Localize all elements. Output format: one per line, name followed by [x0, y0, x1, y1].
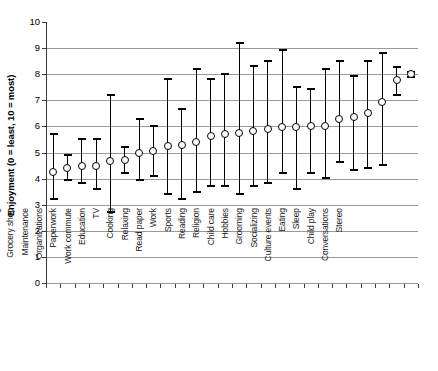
- error-bar-cap-upper: [50, 133, 58, 135]
- error-bar-cap-lower: [336, 161, 344, 163]
- error-bar-cap-lower: [178, 198, 186, 200]
- x-tick-mark-7: [146, 284, 147, 288]
- mean-marker: [235, 129, 243, 137]
- enjoyment-error-bar-chart: Enjoyment (0 = least, 10 = most) 0123456…: [0, 0, 438, 371]
- error-bar-line: [339, 61, 340, 162]
- x-tick-label: Child care: [206, 208, 216, 288]
- x-tick-label: Read paper: [134, 208, 144, 288]
- error-bar-cap-upper: [279, 49, 287, 51]
- mean-marker: [321, 122, 329, 130]
- error-bar-cap-upper: [178, 108, 186, 110]
- error-bar-cap-lower: [250, 185, 258, 187]
- x-tick-label: Reading: [177, 208, 187, 288]
- x-tick-mark-12: [218, 284, 219, 288]
- y-axis-title-text: Enjoyment (0 = least, 10 = most): [6, 74, 17, 215]
- gridline-1: [46, 257, 418, 258]
- x-tick-mark-1: [60, 284, 61, 288]
- error-bar-line: [382, 53, 383, 165]
- error-bar-cap-upper: [336, 60, 344, 62]
- error-bar-line: [267, 61, 268, 183]
- y-tick-mark-4: [42, 179, 47, 180]
- x-tick-mark-18: [304, 284, 305, 288]
- x-tick-mark-20: [332, 284, 333, 288]
- x-tick-mark-2: [75, 284, 76, 288]
- y-tick-label-10: 10: [22, 17, 40, 27]
- gridline-9: [46, 48, 418, 49]
- error-bar-cap-upper: [78, 138, 86, 140]
- x-tick-mark-5: [118, 284, 119, 288]
- error-bar-cap-lower: [393, 94, 401, 96]
- y-tick-mark-10: [42, 22, 47, 23]
- error-bar-cap-upper: [236, 42, 244, 44]
- y-tick-mark-5: [42, 153, 47, 154]
- y-tick-label-4: 4: [22, 174, 40, 184]
- y-tick-mark-6: [42, 126, 47, 127]
- x-tick-label: Grooming: [234, 208, 244, 288]
- gridline-7: [46, 100, 418, 101]
- x-tick-label: Socializing: [249, 208, 259, 288]
- gridline-8: [46, 74, 418, 75]
- mean-marker: [78, 162, 86, 170]
- x-tick-label: Work: [148, 208, 158, 288]
- error-bar-cap-lower: [221, 185, 229, 187]
- x-tick-mark-23: [375, 284, 376, 288]
- error-bar-cap-lower: [193, 191, 201, 193]
- gridline-2: [46, 231, 418, 232]
- x-tick-mark-3: [89, 284, 90, 288]
- x-tick-label: Education: [77, 208, 87, 288]
- error-bar-cap-lower: [64, 179, 72, 181]
- error-bar-cap-upper: [207, 78, 215, 80]
- error-bar-line: [239, 43, 240, 194]
- y-tick-mark-7: [42, 100, 47, 101]
- x-tick-label: Conversations: [320, 208, 330, 288]
- x-tick-label: Relaxing: [120, 208, 130, 288]
- error-bar-cap-upper: [379, 52, 387, 54]
- mean-marker: [178, 141, 186, 149]
- error-bar-cap-lower: [136, 179, 144, 181]
- mean-marker: [121, 156, 129, 164]
- x-tick-mark-26: [418, 284, 419, 288]
- error-bar-cap-lower: [236, 193, 244, 195]
- error-bar-line: [353, 76, 354, 170]
- gridline-4: [46, 179, 418, 180]
- x-tick-label: Religion: [191, 208, 201, 288]
- error-bar-line: [196, 69, 197, 192]
- x-tick-label: Organizations: [34, 208, 44, 288]
- x-tick-mark-11: [203, 284, 204, 288]
- x-tick-mark-24: [389, 284, 390, 288]
- x-tick-label: Paperwork: [48, 208, 58, 288]
- x-tick-mark-10: [189, 284, 190, 288]
- mean-marker: [63, 164, 71, 172]
- y-tick-mark-8: [42, 74, 47, 75]
- x-tick-label: Eating: [277, 208, 287, 288]
- error-bar-cap-lower: [93, 188, 101, 190]
- x-tick-label: Cleaning: [0, 208, 1, 288]
- mean-marker: [407, 70, 415, 78]
- error-bar-cap-lower: [364, 167, 372, 169]
- mean-marker: [350, 113, 358, 121]
- x-tick-mark-4: [103, 284, 104, 288]
- x-tick-label: Work commute: [63, 208, 73, 288]
- x-tick-mark-0: [46, 284, 47, 288]
- mean-marker: [135, 149, 143, 157]
- x-tick-label: Culture events: [263, 208, 273, 288]
- error-bar-line: [181, 109, 182, 199]
- error-bar-line: [296, 87, 297, 189]
- error-bar-cap-lower: [164, 193, 172, 195]
- y-tick-label-6: 6: [22, 121, 40, 131]
- error-bar-cap-upper: [293, 86, 301, 88]
- x-tick-mark-14: [246, 284, 247, 288]
- x-tick-mark-17: [289, 284, 290, 288]
- x-tick-label: Cooking: [105, 208, 115, 288]
- gridline-3: [46, 205, 418, 206]
- y-tick-label-9: 9: [22, 43, 40, 53]
- error-bar-cap-upper: [164, 78, 172, 80]
- x-tick-mark-13: [232, 284, 233, 288]
- mean-marker: [221, 130, 229, 138]
- mean-marker: [106, 157, 114, 165]
- mean-marker: [92, 162, 100, 170]
- mean-marker: [335, 115, 343, 123]
- error-bar-cap-lower: [78, 182, 86, 184]
- x-tick-mark-22: [361, 284, 362, 288]
- error-bar-cap-lower: [264, 182, 272, 184]
